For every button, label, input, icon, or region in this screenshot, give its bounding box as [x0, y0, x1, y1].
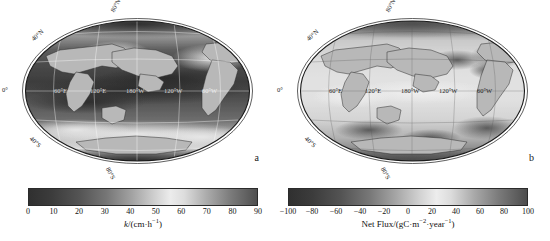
lon-label-120w: 120°W	[164, 87, 182, 94]
cbar-a-tick-10: 10	[50, 207, 58, 216]
map-a: 80°N 40°N 0° 40°S 80°S 60°E 120°E 180°W …	[16, 12, 259, 170]
map-b: 80°N 40°N 0° 40°S 80°S 60°E 120°E 180°W …	[291, 12, 534, 170]
colorbar-b-ticks: −100 −80 −60 −40 −20 0 20 40 60 80 100	[288, 207, 528, 219]
cbar-a-tick-90: 90	[254, 207, 262, 216]
colorbar-a-gradient	[28, 188, 258, 206]
lon-label-60e: 60°E	[329, 87, 342, 94]
cbar-a-tick-80: 80	[228, 207, 236, 216]
cbar-b-tick-m20: −20	[378, 207, 391, 216]
colorbar-b-mid: ·year	[426, 219, 444, 229]
cbar-b-tick-60: 60	[476, 207, 484, 216]
cbar-a-tick-20: 20	[75, 207, 83, 216]
colorbar-b-symbol: Net Flux	[361, 219, 393, 229]
colorbar-b-gradient	[288, 188, 528, 206]
lon-label-120e: 120°E	[90, 87, 106, 94]
lon-label-180w: 180°W	[401, 87, 419, 94]
colorbar-b-unit: /(gC·m	[393, 219, 419, 229]
cbar-a-tick-30: 30	[101, 207, 109, 216]
lat-label-0: 0°	[277, 86, 283, 93]
lon-label-180w: 180°W	[126, 87, 144, 94]
lon-label-120e: 120°E	[365, 87, 381, 94]
cbar-b-tick-100: 100	[522, 207, 534, 216]
colorbar-b: −100 −80 −60 −40 −20 0 20 40 60 80 100 N…	[288, 188, 528, 206]
colorbar-a-close: )	[159, 219, 162, 229]
cbar-b-tick-40: 40	[452, 207, 460, 216]
panel-a: 80°N 40°N 0° 40°S 80°S 60°E 120°E 180°W …	[0, 0, 275, 241]
lat-label-0: 0°	[2, 86, 8, 93]
colorbar-a-exp: −1	[152, 217, 159, 224]
colorbar-a: 0 10 20 30 40 50 60 70 80 90 k/(cm·h−1)	[28, 188, 258, 206]
cbar-b-tick-m40: −40	[354, 207, 367, 216]
lon-label-120w: 120°W	[439, 87, 457, 94]
colorbar-a-ticks: 0 10 20 30 40 50 60 70 80 90	[28, 207, 258, 219]
colorbar-a-unit: /(cm·h	[128, 219, 152, 229]
colorbar-b-close: )	[452, 219, 455, 229]
lon-label-60e: 60°E	[54, 87, 67, 94]
lon-label-60w: 60°W	[202, 87, 217, 94]
cbar-b-tick-20: 20	[428, 207, 436, 216]
cbar-b-tick-0: 0	[406, 207, 410, 216]
cbar-b-tick-80: 80	[500, 207, 508, 216]
figure-container: 80°N 40°N 0° 40°S 80°S 60°E 120°E 180°W …	[0, 0, 550, 241]
cbar-b-tick-m80: −80	[306, 207, 319, 216]
cbar-a-tick-50: 50	[152, 207, 160, 216]
cbar-b-tick-m60: −60	[330, 207, 343, 216]
panel-a-letter: a	[255, 152, 259, 163]
panel-b: 80°N 40°N 0° 40°S 80°S 60°E 120°E 180°W …	[275, 0, 550, 241]
cbar-a-tick-60: 60	[177, 207, 185, 216]
colorbar-b-title: Net Flux/(gC·m−2·year−1)	[288, 219, 528, 229]
panel-b-letter: b	[529, 152, 534, 163]
cbar-a-tick-70: 70	[203, 207, 211, 216]
lon-label-60w: 60°W	[477, 87, 492, 94]
colorbar-b-exp2: −1	[445, 217, 452, 224]
cbar-a-tick-0: 0	[26, 207, 30, 216]
colorbar-a-title: k/(cm·h−1)	[28, 219, 258, 229]
cbar-a-tick-40: 40	[126, 207, 134, 216]
cbar-b-tick-m100: −100	[280, 207, 297, 216]
